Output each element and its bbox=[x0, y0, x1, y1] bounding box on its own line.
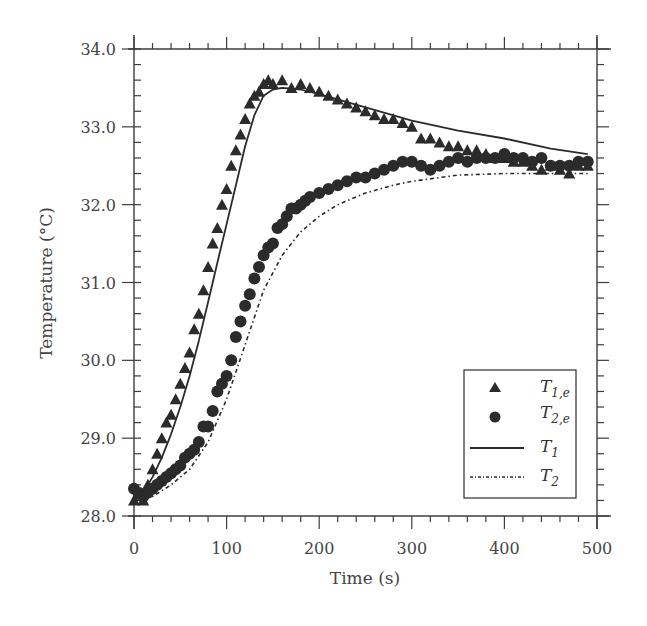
circle-marker bbox=[253, 261, 265, 273]
y-tick-label: 34.0 bbox=[80, 40, 116, 59]
temperature-chart: 0100200300400500 28.029.030.031.032.033.… bbox=[0, 0, 647, 626]
triangle-marker bbox=[295, 78, 307, 89]
triangle-marker bbox=[207, 238, 219, 249]
triangle-marker bbox=[170, 393, 182, 404]
triangle-marker bbox=[225, 160, 237, 171]
y-tick-label: 32.0 bbox=[80, 196, 116, 215]
y-tick-label: 31.0 bbox=[80, 274, 116, 293]
y-tick-label: 30.0 bbox=[80, 351, 116, 370]
circle-marker bbox=[244, 288, 256, 300]
triangle-marker bbox=[230, 144, 242, 155]
y-tick-label: 29.0 bbox=[80, 429, 116, 448]
triangle-marker bbox=[184, 347, 196, 358]
circle-marker bbox=[239, 300, 251, 312]
y-tick-label: 33.0 bbox=[80, 118, 116, 137]
circle-marker bbox=[202, 420, 214, 432]
circle-marker bbox=[193, 436, 205, 448]
circle-marker-icon bbox=[490, 412, 501, 423]
y-tick-label: 28.0 bbox=[80, 507, 116, 526]
y-tick-labels: 28.029.030.031.032.033.034.0 bbox=[80, 40, 116, 526]
x-tick-label: 200 bbox=[304, 539, 335, 558]
circle-marker bbox=[582, 156, 594, 168]
circle-marker bbox=[267, 238, 279, 250]
triangle-marker bbox=[239, 113, 251, 124]
triangle-marker bbox=[193, 308, 205, 319]
circle-marker bbox=[230, 331, 242, 343]
circle-marker bbox=[225, 354, 237, 366]
triangle-marker bbox=[221, 183, 233, 194]
y-axis-title: Temperature (°C) bbox=[36, 207, 56, 359]
triangle-marker bbox=[234, 129, 246, 140]
triangle-marker bbox=[179, 362, 191, 373]
triangle-marker bbox=[188, 323, 200, 334]
circle-marker bbox=[234, 315, 246, 327]
triangle-marker bbox=[276, 74, 288, 85]
triangle-marker bbox=[452, 140, 464, 151]
triangle-marker bbox=[156, 432, 168, 443]
triangle-marker bbox=[211, 222, 223, 233]
x-tick-label: 100 bbox=[211, 539, 242, 558]
x-tick-label: 300 bbox=[397, 539, 428, 558]
triangle-marker bbox=[174, 378, 186, 389]
legend: T1,e T2,e T1 T2 bbox=[464, 370, 576, 498]
circle-marker bbox=[207, 405, 219, 417]
triangle-marker bbox=[424, 133, 436, 144]
x-tick-label: 0 bbox=[129, 539, 139, 558]
x-tick-label: 400 bbox=[489, 539, 520, 558]
triangle-marker bbox=[197, 284, 209, 295]
circle-marker bbox=[221, 370, 233, 382]
triangle-marker bbox=[216, 199, 228, 210]
x-axis-title: Time (s) bbox=[330, 568, 400, 588]
x-tick-label: 500 bbox=[582, 539, 613, 558]
x-tick-labels: 0100200300400500 bbox=[129, 539, 612, 558]
circle-marker bbox=[248, 273, 260, 285]
triangle-marker bbox=[165, 409, 177, 420]
circle-marker bbox=[535, 152, 547, 164]
triangle-marker bbox=[202, 261, 214, 272]
